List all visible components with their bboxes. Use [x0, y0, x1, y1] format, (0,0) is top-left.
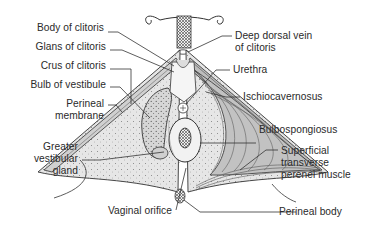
label-ischiocavernosus: Ischiocavernosus: [243, 91, 323, 103]
label-perineal-membrane: Perineal membrane: [0, 98, 104, 122]
label-perineal-membrane-line1: Perineal: [0, 98, 104, 110]
label-ddv-line1: Deep dorsal vein: [235, 30, 312, 42]
label-bulbospongiosus: Bulbospongiosus: [259, 124, 337, 136]
label-crus-of-clitoris: Crus of clitoris: [0, 60, 106, 72]
label-stp-line1: Superficial: [281, 145, 351, 157]
label-gvg-line3: gland: [0, 165, 78, 177]
label-greater-vestibular-gland: Greater vestibular gland: [0, 141, 78, 177]
label-deep-dorsal-vein: Deep dorsal vein of clitoris: [235, 30, 312, 54]
label-bulb-of-vestibule: Bulb of vestibule: [0, 79, 106, 91]
label-urethra: Urethra: [233, 64, 267, 76]
label-body-of-clitoris: Body of clitoris: [0, 22, 104, 34]
label-stp-line3: perenei muscle: [281, 169, 351, 181]
label-perineal-membrane-line2: membrane: [0, 110, 104, 122]
label-superficial-transverse-perinei: Superficial transverse perenei muscle: [281, 145, 351, 181]
label-gvg-line2: vestibular: [0, 153, 78, 165]
label-ddv-line2: of clitoris: [235, 42, 312, 54]
label-vaginal-orifice: Vaginal orifice: [108, 205, 172, 217]
label-stp-line2: transverse: [281, 157, 351, 169]
label-glans-of-clitoris: Glans of clitoris: [0, 41, 106, 53]
label-gvg-line1: Greater: [0, 141, 78, 153]
perineum-diagram: Body of clitoris Glans of clitoris Crus …: [0, 0, 365, 229]
label-perineal-body: Perineal body: [279, 206, 342, 218]
